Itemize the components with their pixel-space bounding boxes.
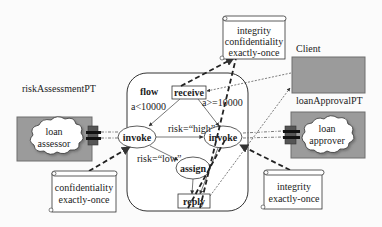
loan-approval-partner: loanApprovalPT loan approver xyxy=(283,95,365,158)
policy-scroll-bottom-left: confidentiality exactly-once xyxy=(49,171,117,212)
policy-scroll-top: integrity confidentiality exactly-once xyxy=(220,16,286,60)
client-partner: Client xyxy=(292,43,365,93)
policy-scroll-bottom-right: integrity exactly-once xyxy=(261,170,324,209)
invoke-left-label: invoke xyxy=(123,132,152,143)
risk-assessment-port-icon xyxy=(86,126,101,145)
assign-label: assign xyxy=(180,163,207,174)
loan-assessor-line1: loan xyxy=(45,126,62,137)
risk-assessment-partner: riskAssessmentPT loan assessor xyxy=(17,83,101,161)
condition-a-less: a<10000 xyxy=(131,101,166,112)
bpel-loan-approval-diagram: riskAssessmentPT loan assessor Client lo… xyxy=(0,0,382,227)
policy-top-line3: exactly-once xyxy=(228,47,280,58)
policy-bottom-right-line2: exactly-once xyxy=(268,193,320,204)
condition-risk-low: risk=“low” xyxy=(137,153,182,164)
flow-label: flow xyxy=(140,86,159,97)
receive-label: receive xyxy=(174,87,204,98)
condition-a-greater-equal: a>=10000 xyxy=(202,97,243,108)
policy-bottom-right-line1: integrity xyxy=(277,181,311,192)
flow-container: flow receive invoke invoke assign reply … xyxy=(118,73,248,211)
policy-top-line2: confidentiality xyxy=(225,36,283,47)
risk-assessment-label: riskAssessmentPT xyxy=(22,83,96,94)
policy-bottom-left-line2: exactly-once xyxy=(58,194,110,205)
client-box xyxy=(292,57,365,93)
loan-approver-line2: approver xyxy=(309,135,345,146)
policy-bottom-left-line1: confidentiality xyxy=(55,182,113,193)
loan-approver-line1: loan xyxy=(318,123,335,134)
policy-top-line1: integrity xyxy=(237,25,271,36)
loan-assessor-line2: assessor xyxy=(38,138,71,149)
client-label: Client xyxy=(296,43,321,54)
condition-risk-high: risk=“high” xyxy=(168,123,215,134)
loan-approval-label: loanApprovalPT xyxy=(296,95,363,106)
